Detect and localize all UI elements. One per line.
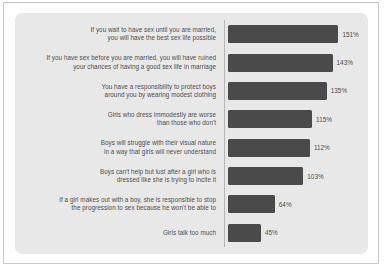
bar-zone: 45% (224, 219, 368, 247)
category-label: Boys will struggle with their visual nat… (15, 139, 224, 155)
bar-zone: 135% (224, 77, 368, 105)
bar-value-label: 112% (314, 144, 330, 151)
bar-zone: 112% (224, 134, 368, 162)
bar-value-label: 151% (342, 31, 358, 38)
bar-row: You have a responsibility to protect boy… (15, 77, 368, 105)
bar-zone: 115% (224, 105, 368, 133)
bar-zone: 151% (224, 20, 368, 48)
category-label: You have a responsibility to protect boy… (15, 83, 224, 99)
bar (228, 25, 338, 43)
bar-value-label: 64% (279, 201, 292, 208)
bar-row: Boys will struggle with their visual nat… (15, 134, 368, 162)
bar (228, 167, 303, 185)
chart-panel: If you wait to have sex until you are ma… (15, 13, 368, 254)
bar-row: If a girl makes out with a boy, she is r… (15, 190, 368, 218)
category-label: Girls who dress immodestly are worse tha… (15, 111, 224, 127)
bar-value-label: 143% (337, 59, 353, 66)
category-label: If a girl makes out with a boy, she is r… (15, 196, 224, 212)
bar (228, 139, 310, 157)
category-label: If you wait to have sex until you are ma… (15, 26, 224, 42)
bar (228, 54, 333, 72)
bar (228, 110, 312, 128)
figure-frame: If you wait to have sex until you are ma… (3, 2, 379, 264)
bar-row: If you have sex before you are married, … (15, 48, 368, 76)
bar-zone: 103% (224, 162, 368, 190)
bar-zone: 64% (224, 190, 368, 218)
bar-chart-plot-area: If you wait to have sex until you are ma… (15, 20, 368, 247)
bar-row: If you wait to have sex until you are ma… (15, 20, 368, 48)
bar-value-label: 103% (307, 173, 323, 180)
bar-row: Girls who dress immodestly are worse tha… (15, 105, 368, 133)
category-label: If you have sex before you are married, … (15, 54, 224, 70)
bar (228, 82, 327, 100)
bar-value-label: 45% (265, 229, 278, 236)
bar-value-label: 115% (316, 116, 332, 123)
bar-row: Boys can't help but lust after a girl wh… (15, 162, 368, 190)
bar-zone: 143% (224, 48, 368, 76)
bar-value-label: 135% (331, 87, 347, 94)
category-label: Boys can't help but lust after a girl wh… (15, 168, 224, 184)
bar (228, 195, 275, 213)
bar (228, 224, 261, 242)
bar-row: Girls talk too much45% (15, 219, 368, 247)
category-label: Girls talk too much (15, 229, 224, 237)
